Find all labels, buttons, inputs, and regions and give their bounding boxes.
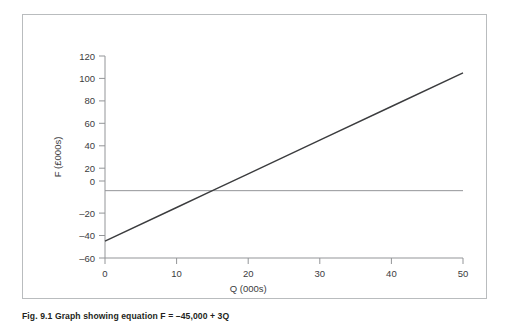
y-tick-label: 80 — [84, 95, 95, 106]
x-axis-title: Q (000s) — [230, 283, 267, 294]
x-tick-label: 0 — [102, 268, 107, 279]
chart-frame: 120 100 80 60 40 20 0 –20 –40 –60 0 10 2… — [22, 14, 487, 299]
figure-container: 120 100 80 60 40 20 0 –20 –40 –60 0 10 2… — [0, 0, 508, 323]
x-tick-label: 50 — [458, 268, 469, 279]
series-line-f-equation — [105, 73, 463, 241]
x-tick-label: 10 — [171, 268, 182, 279]
figure-caption: Fig. 9.1 Graph showing equation F = –45,… — [22, 311, 492, 321]
y-tick-marks — [99, 56, 105, 258]
x-tick-marks — [105, 258, 463, 264]
chart-plot: 120 100 80 60 40 20 0 –20 –40 –60 0 10 2… — [23, 15, 486, 298]
x-tick-label: 20 — [243, 268, 254, 279]
y-tick-label: 0 — [90, 176, 95, 187]
y-tick-label: 40 — [84, 140, 95, 151]
y-tick-label: 120 — [79, 51, 95, 62]
y-tick-label: 20 — [84, 163, 95, 174]
x-tick-label: 30 — [315, 268, 326, 279]
y-tick-label: 100 — [79, 73, 95, 84]
y-tick-label: –60 — [79, 253, 95, 264]
x-tick-label: 40 — [386, 268, 397, 279]
y-tick-label: –20 — [79, 208, 95, 219]
y-tick-label: 60 — [84, 118, 95, 129]
y-axis-title: F (£000s) — [52, 137, 63, 178]
y-tick-label: –40 — [79, 230, 95, 241]
